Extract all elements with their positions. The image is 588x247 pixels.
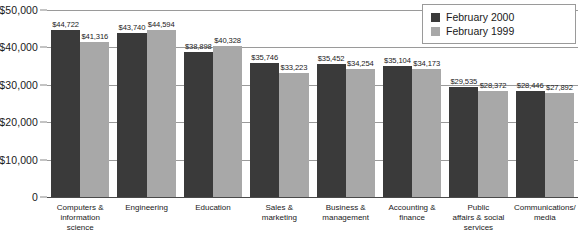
y-axis-tick-mark xyxy=(40,47,47,48)
bar-value-label: $29,535 xyxy=(450,77,477,86)
legend-item-label: February 2000 xyxy=(446,11,514,23)
category-label-line: services xyxy=(446,223,510,233)
bar-slot: $38,898 xyxy=(184,10,213,197)
bar-slot: $44,594 xyxy=(147,10,176,197)
bar-slot: $40,328 xyxy=(213,10,242,197)
y-axis-tick-mark xyxy=(40,84,47,85)
bar-group: $35,452$34,254 xyxy=(313,10,379,197)
legend-item-label: February 1999 xyxy=(446,25,514,37)
category-label-line: Engineering xyxy=(114,203,178,213)
bar[interactable]: $28,372 xyxy=(478,91,507,197)
y-axis-tick-label: $40,000 xyxy=(0,41,38,53)
legend-swatch-icon xyxy=(431,27,440,36)
bar-slot: $34,254 xyxy=(346,10,375,197)
bar[interactable]: $28,446 xyxy=(516,91,545,197)
bar[interactable]: $35,452 xyxy=(317,64,346,197)
y-axis: $50,000$40,000$30,000$20,000$10,0000 xyxy=(0,0,47,207)
category-label: Sales &marketing xyxy=(246,200,312,247)
bar-value-label: $34,254 xyxy=(347,59,374,68)
category-label: Education xyxy=(180,200,246,247)
bar[interactable]: $33,223 xyxy=(279,73,308,197)
category-label-line: science xyxy=(48,223,112,233)
category-label-line: marketing xyxy=(247,213,311,223)
chart-legend: February 2000 February 1999 xyxy=(422,4,576,44)
bar[interactable]: $27,892 xyxy=(545,93,574,197)
bar-value-label: $40,328 xyxy=(214,36,241,45)
category-label: Accounting &finance xyxy=(379,200,445,247)
bar[interactable]: $29,535 xyxy=(449,87,478,197)
bar-slot: $41,316 xyxy=(80,10,109,197)
bar-value-label: $35,452 xyxy=(318,54,345,63)
bar-value-label: $34,173 xyxy=(413,59,440,68)
category-label-line: affairs & social xyxy=(446,213,510,223)
bar[interactable]: $38,898 xyxy=(184,52,213,197)
y-axis-tick-mark xyxy=(40,159,47,160)
bar-group: $43,740$44,594 xyxy=(113,10,179,197)
legend-item[interactable]: February 2000 xyxy=(431,10,569,24)
y-axis-tick-mark xyxy=(40,122,47,123)
bar-value-label: $28,446 xyxy=(517,81,544,90)
category-label: Publicaffairs & socialservices xyxy=(445,200,511,247)
bar-slot: $43,740 xyxy=(117,10,146,197)
bar-group: $44,722$41,316 xyxy=(47,10,113,197)
bar-slot: $35,104 xyxy=(383,10,412,197)
bar-value-label: $41,316 xyxy=(81,32,108,41)
bar[interactable]: $34,254 xyxy=(346,69,375,197)
bar-slot: $44,722 xyxy=(51,10,80,197)
axis-baseline xyxy=(47,197,578,198)
bar-group: $35,746$33,223 xyxy=(246,10,312,197)
bar[interactable]: $43,740 xyxy=(117,33,146,197)
y-axis-tick-mark xyxy=(40,197,47,198)
bar[interactable]: $40,328 xyxy=(213,46,242,197)
y-axis-tick-label: $10,000 xyxy=(0,154,38,166)
y-axis-tick-label: 0 xyxy=(32,191,38,203)
category-label-line: media xyxy=(513,213,577,223)
category-label: Business &management xyxy=(313,200,379,247)
category-label-line: Public xyxy=(446,203,510,213)
bar-value-label: $44,722 xyxy=(52,20,79,29)
bar[interactable]: $35,746 xyxy=(250,63,279,197)
bar-value-label: $27,892 xyxy=(546,83,573,92)
y-axis-tick-label: $20,000 xyxy=(0,116,38,128)
bar-value-label: $28,372 xyxy=(480,81,507,90)
category-label: Computers &informationscience xyxy=(47,200,113,247)
bar-value-label: $35,746 xyxy=(251,53,278,62)
category-axis: Computers &informationscienceEngineering… xyxy=(47,200,578,247)
category-label-line: Business & xyxy=(314,203,378,213)
category-label-line: information xyxy=(48,213,112,223)
category-label: Engineering xyxy=(113,200,179,247)
y-axis-tick-mark xyxy=(40,10,47,11)
category-label-line: finance xyxy=(380,213,444,223)
category-label-line: Accounting & xyxy=(380,203,444,213)
bar[interactable]: $41,316 xyxy=(80,42,109,197)
bar-slot: $33,223 xyxy=(279,10,308,197)
legend-item[interactable]: February 1999 xyxy=(431,24,569,38)
bar-value-label: $38,898 xyxy=(185,42,212,51)
category-label-line: Computers & xyxy=(48,203,112,213)
category-label-line: management xyxy=(314,213,378,223)
bar[interactable]: $44,722 xyxy=(51,30,80,197)
bar-slot: $35,746 xyxy=(250,10,279,197)
y-axis-tick-label: $30,000 xyxy=(0,79,38,91)
bar[interactable]: $35,104 xyxy=(383,66,412,197)
category-label-line: Sales & xyxy=(247,203,311,213)
legend-swatch-icon xyxy=(431,13,440,22)
bar-value-label: $33,223 xyxy=(281,63,308,72)
bar[interactable]: $34,173 xyxy=(412,69,441,197)
bar-value-label: $43,740 xyxy=(119,23,146,32)
bar-slot: $35,452 xyxy=(317,10,346,197)
bar-chart: $50,000$40,000$30,000$20,000$10,0000 $44… xyxy=(0,0,588,247)
bar[interactable]: $44,594 xyxy=(147,30,176,197)
category-label-line: Communications/ xyxy=(513,203,577,213)
category-label: Communications/media xyxy=(512,200,578,247)
bar-group: $38,898$40,328 xyxy=(180,10,246,197)
bar-value-label: $44,594 xyxy=(148,20,175,29)
category-label-line: Education xyxy=(181,203,245,213)
bar-value-label: $35,104 xyxy=(384,56,411,65)
y-axis-tick-label: $50,000 xyxy=(0,4,38,16)
